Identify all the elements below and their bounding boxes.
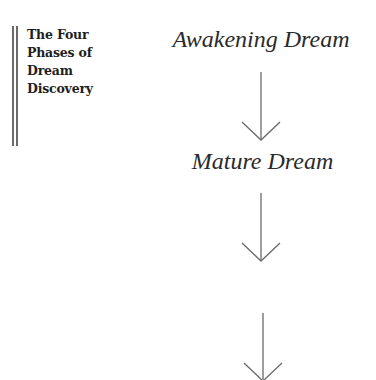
down-arrow-icon — [242, 72, 280, 140]
down-arrow-icon — [242, 193, 280, 261]
down-arrow-icon — [244, 313, 282, 380]
flow-arrows — [0, 0, 376, 380]
